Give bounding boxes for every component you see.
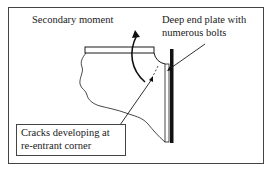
secondary-moment-label: Secondary moment bbox=[32, 14, 113, 27]
end-plate-label: Deep end plate with numerous bolts bbox=[162, 14, 246, 39]
end-plate-label-line2: numerous bolts bbox=[162, 27, 246, 40]
beam-flange bbox=[85, 47, 154, 53]
moment-arrow bbox=[132, 35, 145, 82]
crack-leader bbox=[120, 79, 152, 125]
end-plate-leader bbox=[168, 44, 205, 70]
end-plate-label-line1: Deep end plate with bbox=[162, 14, 246, 27]
moment-arrowhead-icon bbox=[132, 30, 140, 38]
cracks-label-box: Cracks developing at re-entrant corner bbox=[16, 124, 126, 156]
column-flange bbox=[170, 49, 174, 143]
cracks-label-line1: Cracks developing at bbox=[21, 127, 125, 140]
crack-line bbox=[153, 66, 158, 76]
re-entrant-corner bbox=[154, 53, 165, 64]
cracks-label-line2: re-entrant corner bbox=[21, 140, 125, 153]
end-plate bbox=[165, 64, 169, 142]
